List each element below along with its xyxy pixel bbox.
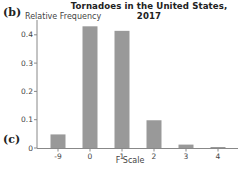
x-tick-label: 3 (184, 152, 189, 161)
y-tick-label: 0 (28, 144, 33, 153)
y-tick-label: 0.4 (21, 30, 33, 39)
bar (83, 26, 98, 148)
x-tick-label: -9 (54, 152, 62, 161)
x-tick-label: 4 (216, 152, 221, 161)
bar (147, 120, 162, 148)
bar (179, 145, 194, 148)
y-tick-label: 0.2 (21, 87, 33, 96)
x-tick-label: 0 (88, 152, 93, 161)
x-tick-label: 2 (152, 152, 157, 161)
bar (211, 147, 226, 148)
bar-chart: 00.10.20.30.4-901234 (0, 0, 240, 169)
bar (51, 134, 66, 148)
bars (51, 26, 226, 148)
bar (115, 31, 130, 148)
y-tick-label: 0.3 (21, 59, 33, 68)
x-tick-label: 1 (120, 152, 125, 161)
y-tick-label: 0.1 (21, 115, 33, 124)
